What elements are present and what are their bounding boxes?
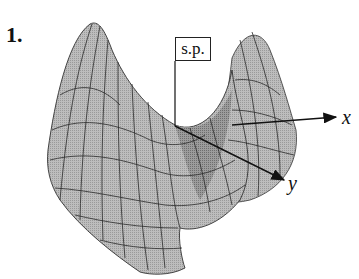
x-axis-label: x bbox=[342, 106, 351, 129]
figure-number: 1. bbox=[6, 22, 23, 48]
y-axis-label: y bbox=[288, 172, 297, 195]
saddle-point-label: s.p. bbox=[175, 37, 211, 61]
